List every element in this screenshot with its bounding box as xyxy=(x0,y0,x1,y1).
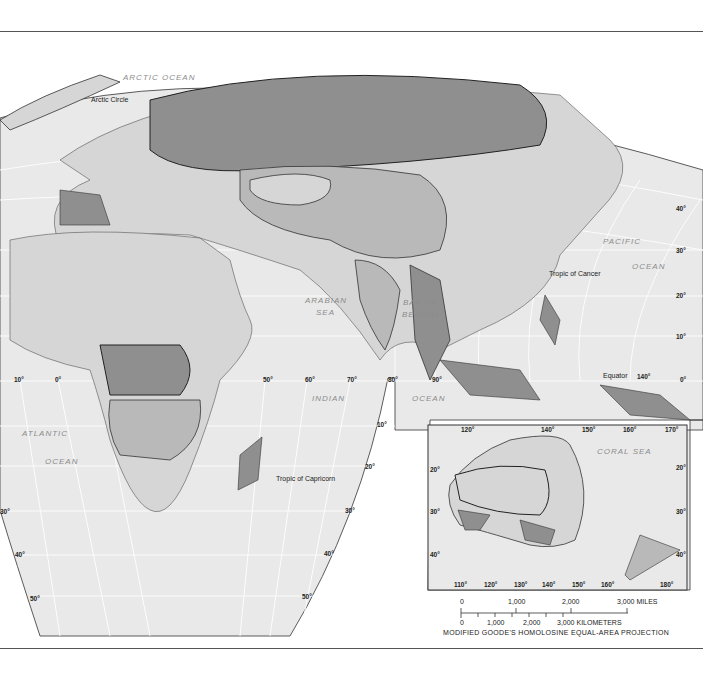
lat-label: 50° xyxy=(30,595,40,602)
lon-label: 90° xyxy=(432,376,442,383)
inset-lat-label: 30° xyxy=(676,508,686,515)
inset-lon-label: 120° xyxy=(484,581,497,588)
tropic-of-capricorn-label: Tropic of Capricorn xyxy=(276,475,335,482)
inset-lat-label: 30° xyxy=(430,508,440,515)
lon-label: 60° xyxy=(305,376,315,383)
lat-label: 40° xyxy=(15,551,25,558)
inset-lon-label: 150° xyxy=(582,426,595,433)
lat-label: 40° xyxy=(324,550,334,557)
scale-miles-tick: 2,000 xyxy=(562,598,580,605)
inset-lon-label: 130° xyxy=(514,581,527,588)
scale-miles-tick: 0 xyxy=(460,598,464,605)
inset-lon-label: 180° xyxy=(660,581,673,588)
inset-lat-label: 40° xyxy=(430,551,440,558)
inset-lat-label: 40° xyxy=(676,551,686,558)
lat-label: 0° xyxy=(680,376,686,383)
bay-of-bengal-label-2: BENGAL xyxy=(402,310,440,319)
scale-km-tick: 1,000 xyxy=(487,619,505,626)
lon-label: 140° xyxy=(637,373,650,380)
equator-label: Equator xyxy=(603,372,628,379)
inset-lon-label: 140° xyxy=(542,581,555,588)
inset-lon-label: 120° xyxy=(461,426,474,433)
inset-lat-label: 20° xyxy=(676,464,686,471)
indian-ocean-label: INDIAN xyxy=(312,394,345,403)
lat-label: 30° xyxy=(345,507,355,514)
pacific-ocean-label: PACIFIC xyxy=(603,237,641,246)
lon-label: 80° xyxy=(388,376,398,383)
inset-lon-label: 110° xyxy=(454,581,467,588)
scale-km-tick: 2,000 xyxy=(523,619,541,626)
arabian-sea-label-2: SEA xyxy=(316,308,335,317)
atlantic-ocean-label: ATLANTIC xyxy=(22,429,68,438)
indian-ocean-label-2: OCEAN xyxy=(412,394,445,403)
scale-miles-tick: 1,000 xyxy=(508,598,526,605)
arctic-ocean-label: ARCTIC OCEAN xyxy=(123,73,195,82)
tropic-of-cancer-label: Tropic of Cancer xyxy=(549,270,600,277)
inset-lon-label: 150° xyxy=(572,581,585,588)
lat-label: 10° xyxy=(377,421,387,428)
projection-label: MODIFIED GOODE'S HOMOLOSINE EQUAL-AREA P… xyxy=(443,629,669,636)
lon-label: 70° xyxy=(347,376,357,383)
arabian-sea-label: ARABIAN xyxy=(305,296,347,305)
arctic-circle-label: Arctic Circle xyxy=(91,96,128,103)
lat-label: 40° xyxy=(676,205,686,212)
scale-km-tick: 0 xyxy=(460,619,464,626)
pacific-ocean-label-2: OCEAN xyxy=(632,262,665,271)
atlantic-ocean-label-2: OCEAN xyxy=(45,457,78,466)
bay-of-bengal-label: BAY OF xyxy=(403,298,438,307)
inset-lon-label: 140° xyxy=(541,426,554,433)
scale-km-tick: 3,000 KILOMETERS xyxy=(557,619,622,626)
lat-label: 10° xyxy=(676,333,686,340)
lat-label: 20° xyxy=(676,292,686,299)
lon-label: 0° xyxy=(55,376,61,383)
coral-sea-label: CORAL SEA xyxy=(597,447,652,456)
inset-lon-label: 160° xyxy=(601,581,614,588)
inset-lat-label: 20° xyxy=(430,466,440,473)
lat-label: 50° xyxy=(302,593,312,600)
inset-lon-label: 170° xyxy=(665,426,678,433)
scale-miles-tick: 3,000 MILES xyxy=(617,598,657,605)
lat-label: 20° xyxy=(365,463,375,470)
lat-label: 30° xyxy=(676,247,686,254)
lon-label: 10° xyxy=(14,376,24,383)
congo-zone xyxy=(100,345,190,395)
lon-label: 50° xyxy=(263,376,273,383)
inset-lon-label: 160° xyxy=(623,426,636,433)
lat-label: 30° xyxy=(0,508,10,515)
